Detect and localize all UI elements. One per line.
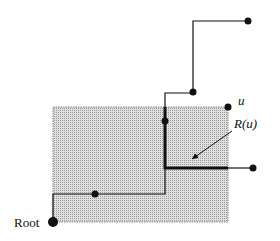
region-r-u (53, 107, 228, 222)
node-u (225, 104, 232, 111)
edge-upper-branch (165, 21, 248, 107)
label-region: R(u) (233, 116, 257, 131)
label-u: u (238, 93, 245, 108)
node (245, 18, 252, 25)
node (162, 118, 169, 125)
node (190, 89, 197, 96)
label-root: Root (14, 215, 40, 230)
node-root (48, 217, 58, 227)
tree-diagram: Root u R(u) (0, 0, 280, 241)
node (250, 165, 257, 172)
node (92, 191, 99, 198)
